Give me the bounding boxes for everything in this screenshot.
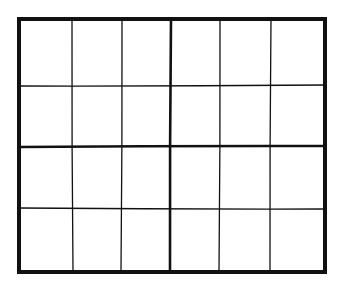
center-horizontal-line [19, 146, 325, 147]
grid-diagram [0, 0, 344, 284]
